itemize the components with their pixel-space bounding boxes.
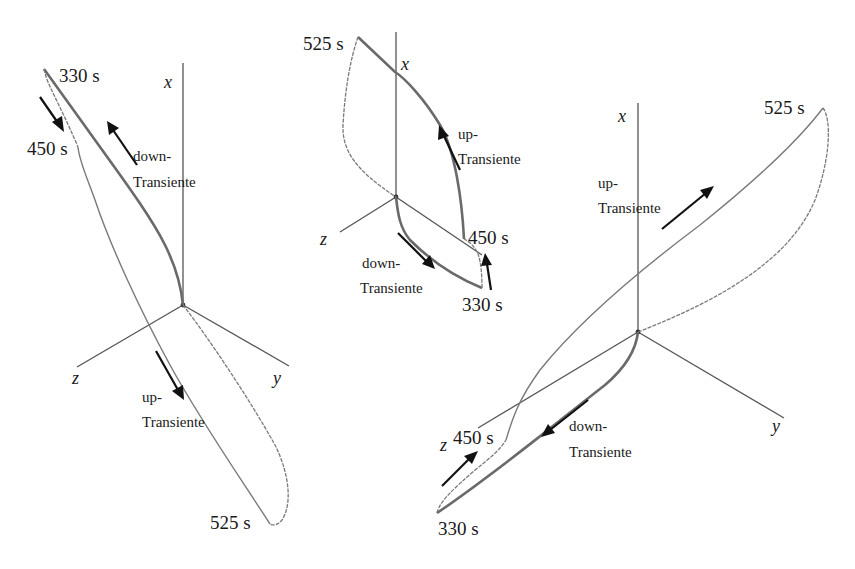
axis-label-x: x [400, 54, 409, 74]
time-label-330: 330 s [462, 294, 503, 315]
annotation-down-line2: Transiente [360, 280, 423, 296]
annotation-up-line1: up- [598, 175, 618, 191]
axis-label-z: z [71, 368, 79, 388]
trajectory-segment [638, 108, 828, 332]
time-label-330: 330 s [438, 518, 479, 539]
arrow-icon [442, 451, 478, 486]
arrow-icon [438, 125, 460, 170]
time-label-525: 525 s [764, 97, 805, 118]
annotation-down-line1: down- [362, 255, 400, 271]
diagram-canvas: 330 s 450 s 525 s x z y down- Transiente… [0, 0, 855, 569]
y-axis [183, 305, 289, 366]
annotation-down-line1: down- [133, 148, 171, 164]
z-axis [340, 197, 396, 232]
axis-label-y: y [271, 368, 281, 388]
annotation-down-line2: Transiente [569, 444, 632, 460]
annotation-up-line2: Transiente [598, 200, 661, 216]
annotation-up-line2: Transiente [142, 414, 205, 430]
z-axis [77, 305, 183, 367]
axis-label-z: z [439, 435, 447, 455]
trajectory-return [437, 440, 506, 513]
arrow-icon [40, 97, 64, 132]
panel-middle: 525 s 450 s 330 s x z up- Transiente dow… [303, 32, 521, 315]
time-label-525: 525 s [303, 33, 344, 54]
time-label-450: 450 s [453, 427, 494, 448]
arrow-icon [398, 233, 435, 269]
axis-label-x: x [163, 72, 172, 92]
trajectory-down-transient [437, 332, 638, 513]
panel-left: 330 s 450 s 525 s x z y down- Transiente… [27, 63, 289, 533]
z-axis [478, 332, 638, 428]
time-label-330: 330 s [59, 65, 100, 86]
time-label-450: 450 s [468, 227, 509, 248]
y-axis [638, 332, 784, 418]
trajectory-up-transient [78, 147, 270, 524]
axis-label-x: x [617, 106, 626, 126]
annotation-down-line2: Transiente [133, 174, 196, 190]
trajectory-up-transient [358, 37, 464, 239]
trajectory-up-transient [506, 108, 823, 440]
annotation-up-line1: up- [458, 126, 478, 142]
annotation-down-line1: down- [569, 418, 607, 434]
time-label-525: 525 s [210, 512, 251, 533]
axis-label-y: y [770, 416, 780, 436]
arrow-icon [481, 253, 492, 290]
annotation-up-line2: Transiente [458, 151, 521, 167]
trajectory-segment [343, 37, 396, 197]
annotation-up-line1: up- [142, 389, 162, 405]
axis-label-z: z [319, 229, 327, 249]
time-label-450: 450 s [27, 138, 68, 159]
arrow-icon [662, 186, 714, 229]
